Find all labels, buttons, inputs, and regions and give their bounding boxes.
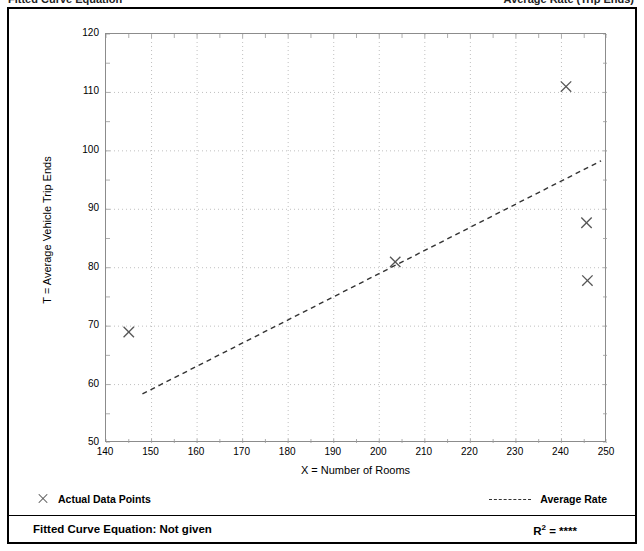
y-axis-tick-label: 80 — [69, 262, 99, 272]
average-rate-trend-line — [142, 161, 601, 394]
fitted-curve-equation-note: Fitted Curve Equation: Not given — [33, 523, 212, 535]
x-axis-tick-label: 220 — [449, 446, 489, 458]
x-axis-tick-label: 190 — [313, 446, 353, 458]
x-axis-tick-label: 230 — [495, 446, 535, 458]
y-axis-tick-label: 90 — [69, 203, 99, 213]
header-right-text: Average Rate (Trip Ends) — [504, 0, 634, 5]
y-axis-tick-label: 60 — [69, 379, 99, 389]
x-axis-tick-labels: 140150160170180190200210220230240250 — [105, 446, 606, 464]
x-axis-tick-label: 240 — [540, 446, 580, 458]
y-axis-tick-label: 70 — [69, 320, 99, 330]
x-axis-tick-label: 180 — [267, 446, 307, 458]
x-axis-tick-label: 150 — [131, 446, 171, 458]
chart-screenshot: Fitted Curve Equation Average Rate (Trip… — [0, 0, 644, 551]
chart-legend: Actual Data Points Average Rate — [9, 491, 639, 515]
x-axis-tick-label: 210 — [404, 446, 444, 458]
x-marker-icon — [37, 493, 49, 505]
cut-off-header-strip: Fitted Curve Equation Average Rate (Trip… — [0, 0, 644, 7]
y-axis-title: T = Average Vehicle Trip Ends — [41, 100, 53, 360]
series-average-rate-line — [142, 161, 601, 394]
r-squared-value: = **** — [546, 525, 577, 537]
plot-canvas — [106, 34, 607, 443]
x-axis-tick-label: 200 — [358, 446, 398, 458]
r-squared-note: R2 = **** — [533, 523, 577, 537]
plot-area — [105, 33, 606, 442]
x-axis-tick-label: 170 — [222, 446, 262, 458]
y-axis-tick-label: 100 — [69, 145, 99, 155]
gridlines — [106, 34, 607, 443]
minor-ticks — [106, 34, 607, 443]
header-left-text: Fitted Curve Equation — [8, 0, 122, 5]
data-point-marker — [581, 218, 591, 228]
x-axis-tick-label: 250 — [586, 446, 626, 458]
figure-frame: T = Average Vehicle Trip Ends 5060708090… — [7, 7, 637, 544]
dashed-line-icon — [489, 499, 531, 500]
legend-item-actual-data-points: Actual Data Points — [37, 493, 151, 505]
y-axis-tick-label: 110 — [69, 86, 99, 96]
legend-item-average-rate: Average Rate — [489, 493, 607, 505]
legend-label-average-rate: Average Rate — [540, 493, 607, 505]
data-point-marker — [582, 275, 592, 285]
y-axis-tick-label: 120 — [69, 28, 99, 38]
legend-label-actual-data-points: Actual Data Points — [58, 493, 151, 505]
x-axis-tick-label: 160 — [176, 446, 216, 458]
note-bar: Fitted Curve Equation: Not given R2 = **… — [9, 515, 635, 544]
x-axis-title: X = Number of Rooms — [105, 464, 606, 476]
data-point-marker — [561, 81, 571, 91]
data-point-marker — [124, 327, 134, 337]
r-squared-prefix: R — [533, 525, 541, 537]
x-axis-tick-label: 140 — [85, 446, 125, 458]
y-axis-tick-labels: 5060708090100110120 — [61, 33, 99, 442]
